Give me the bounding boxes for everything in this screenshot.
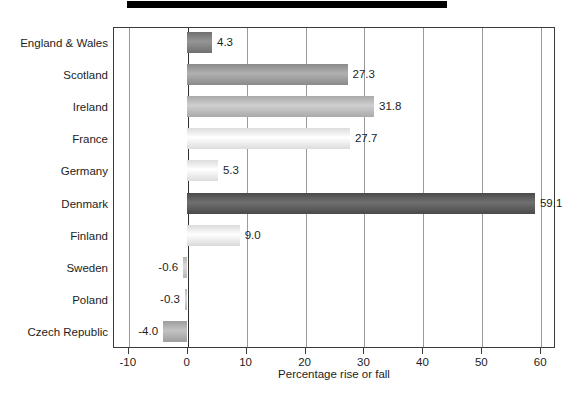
x-tick-label: 0: [183, 356, 189, 368]
bar: [183, 257, 187, 278]
bar: [187, 64, 348, 85]
bar: [187, 128, 350, 149]
bar-row: 9.0: [113, 220, 555, 251]
x-tick-label: 30: [357, 356, 370, 368]
x-tick: [305, 348, 306, 354]
category-label: Scotland: [0, 68, 108, 82]
top-black-rule: [127, 1, 447, 8]
bar: [187, 193, 535, 214]
category-label: Czech Republic: [0, 325, 108, 339]
x-tick-label: 20: [298, 356, 311, 368]
bar-row: 59.1: [113, 188, 555, 219]
bar-row: -4.0: [113, 316, 555, 347]
bar-row: 27.3: [113, 59, 555, 90]
bar-row: 27.7: [113, 123, 555, 154]
bar-value-label: 5.3: [223, 162, 239, 178]
category-label: Finland: [0, 229, 108, 243]
category-label: Denmark: [0, 197, 108, 211]
bar-value-label: 4.3: [217, 34, 233, 50]
bar-value-label: -4.0: [138, 323, 158, 339]
category-label: England & Wales: [0, 36, 108, 50]
x-tick: [422, 348, 423, 354]
bar-row: 4.3: [113, 27, 555, 58]
x-tick: [363, 348, 364, 354]
category-label: Ireland: [0, 100, 108, 114]
bar-value-label: 27.7: [355, 130, 377, 146]
x-tick-label: 60: [534, 356, 547, 368]
bar: [187, 96, 374, 117]
bar-value-label: 31.8: [379, 98, 401, 114]
bar: [187, 32, 212, 53]
bar-value-label: 9.0: [245, 227, 261, 243]
x-tick: [246, 348, 247, 354]
x-tick-label: 40: [416, 356, 429, 368]
bar-value-label: -0.6: [158, 259, 178, 275]
category-label: Poland: [0, 293, 108, 307]
x-tick: [540, 348, 541, 354]
bar-value-label: 27.3: [353, 66, 375, 82]
bar-value-label: -0.3: [160, 291, 180, 307]
bar-value-label: 59.1: [540, 195, 562, 211]
bar: [187, 225, 240, 246]
bar-row: -0.3: [113, 284, 555, 315]
x-tick-label: 10: [239, 356, 252, 368]
category-axis-labels: England & WalesScotlandIrelandFranceGerm…: [0, 27, 108, 348]
bar-row: 31.8: [113, 91, 555, 122]
bar-chart: England & WalesScotlandIrelandFranceGerm…: [0, 0, 583, 414]
x-tick-label: 50: [475, 356, 488, 368]
x-tick: [481, 348, 482, 354]
category-label: France: [0, 132, 108, 146]
bar: [187, 160, 218, 181]
x-tick-label: -10: [119, 356, 136, 368]
bar-row: -0.6: [113, 252, 555, 283]
bar-row: 5.3: [113, 155, 555, 186]
bar-rows: 4.327.331.827.75.359.19.0-0.6-0.3-4.0: [113, 27, 555, 348]
category-label: Sweden: [0, 261, 108, 275]
x-tick: [187, 348, 188, 354]
category-label: Germany: [0, 164, 108, 178]
bar: [163, 321, 187, 342]
bar: [185, 289, 187, 310]
x-axis-title: Percentage rise or fall: [113, 368, 555, 380]
x-tick: [128, 348, 129, 354]
